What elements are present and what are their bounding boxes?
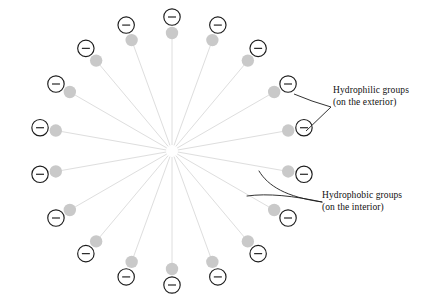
- hydrophobic-tail-terminus: [282, 124, 294, 136]
- callout-hydrophobic-label: Hydrophobic groups (on the interior): [322, 190, 402, 213]
- hydrophobic-tail: [132, 157, 170, 262]
- hydrophobic-tail-terminus: [206, 256, 218, 268]
- callout-hydrophilic-line1: Hydrophilic groups: [333, 85, 409, 97]
- hydrophobic-tail: [96, 61, 168, 147]
- hydrophobic-tail-terminus: [50, 124, 62, 136]
- hydrophobic-tail-terminus: [90, 54, 102, 66]
- hydrophobic-tail-terminus: [125, 34, 137, 46]
- hydrophobic-tail: [176, 156, 248, 242]
- leaders-group: [247, 94, 331, 202]
- hydrophobic-tail-terminus: [64, 86, 76, 98]
- diagram-canvas: [0, 0, 440, 303]
- hydrophobic-tail: [132, 40, 170, 145]
- hydrophobic-tail: [56, 152, 166, 171]
- hydrophobic-tail-terminus: [268, 86, 280, 98]
- hydrophobic-tail-terminus: [166, 263, 178, 275]
- hydrophobic-tail: [174, 40, 212, 145]
- callout-hydrophilic-line2: (on the exterior): [333, 97, 409, 109]
- hydrophobic-tail-terminus: [125, 256, 137, 268]
- hydrophobic-tail: [70, 92, 167, 148]
- hydrophobic-tail: [177, 154, 274, 210]
- callout-hydrophilic-label: Hydrophilic groups (on the exterior): [333, 85, 409, 108]
- micelle-diagram: Hydrophilic groups (on the exterior) Hyd…: [0, 0, 440, 303]
- hydrophobic-tail: [178, 152, 288, 171]
- hydrophobic-tail: [96, 156, 168, 242]
- callout-hydrophobic-line1: Hydrophobic groups: [322, 190, 402, 202]
- hydrophobic-tail: [56, 131, 166, 150]
- hydrophobic-tail-terminus: [64, 204, 76, 216]
- hydrophobic-tail-terminus: [206, 34, 218, 46]
- hydrophobic-tail-terminus: [242, 235, 254, 247]
- hydrophobic-tail-terminus: [90, 235, 102, 247]
- hydrophobic-tail-terminus: [242, 54, 254, 66]
- hydrophobic-tail-terminus: [282, 165, 294, 177]
- hydrophobic-tail: [70, 154, 167, 210]
- hydrophobic-tail: [174, 157, 212, 262]
- hydrophobic-tail-terminus: [50, 165, 62, 177]
- spokes-group: [56, 33, 288, 269]
- hydrophobic-tail: [176, 61, 248, 147]
- hydrophobic-tail: [178, 131, 288, 150]
- hydrophobic-tail-terminus: [268, 204, 280, 216]
- callout-hydrophobic-line2: (on the interior): [322, 202, 402, 214]
- hydrophobic-tail-terminus: [166, 27, 178, 39]
- hydrophobic-tail: [177, 92, 274, 148]
